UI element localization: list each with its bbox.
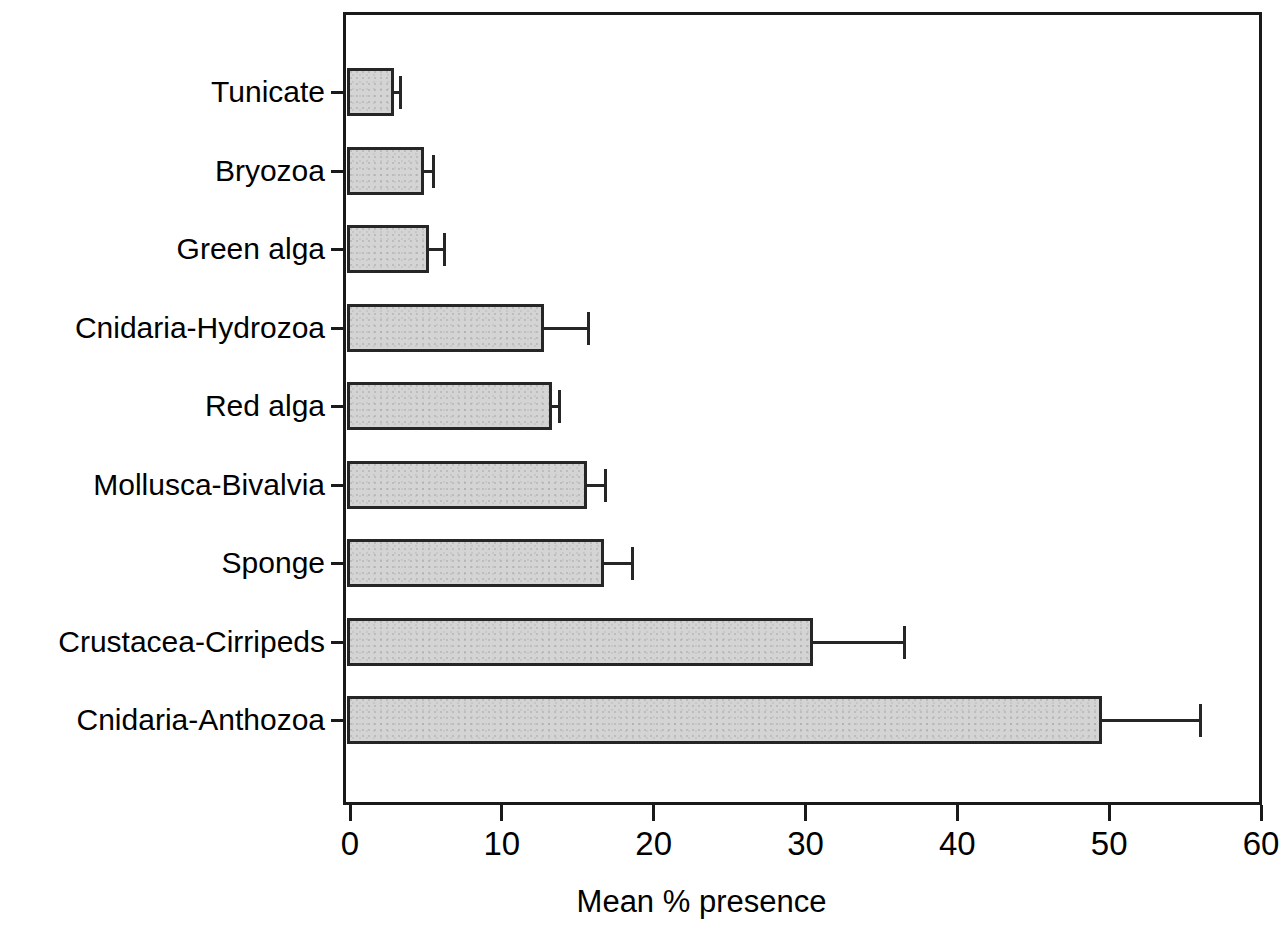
error-bar-line: [587, 484, 604, 487]
error-bar-line: [544, 327, 587, 330]
error-bar-cap: [432, 155, 435, 188]
y-axis-label-cnidaria-hydrozoa: Cnidaria-Hydrozoa: [0, 312, 325, 344]
y-axis-label-tunicate: Tunicate: [0, 76, 325, 108]
y-axis-label-mollusca-bivalvia: Mollusca-Bivalvia: [0, 469, 325, 501]
x-axis-tick: [652, 805, 655, 821]
bar-tunicate: [347, 68, 394, 116]
x-axis-tick-label: 20: [635, 826, 672, 862]
bar-mollusca-bivalvia: [347, 461, 587, 509]
x-axis-tick: [500, 805, 503, 821]
bar-bryozoa: [347, 147, 424, 195]
error-bar-cap: [604, 469, 607, 502]
bar-chart: TunicateBryozoaGreen algaCnidaria-Hydroz…: [0, 0, 1283, 932]
error-bar-cap: [399, 76, 402, 109]
bar-crustacea-cirripeds: [347, 618, 813, 666]
bar-cnidaria-anthozoa: [347, 696, 1102, 744]
x-axis-tick: [1108, 805, 1111, 821]
bars-layer: [343, 12, 1262, 805]
y-axis-label-green-alga: Green alga: [0, 233, 325, 265]
y-axis-label-cnidaria-anthozoa: Cnidaria-Anthozoa: [0, 704, 325, 736]
bar-sponge: [347, 539, 604, 587]
error-bar-cap: [443, 233, 446, 266]
x-axis-tick-label: 10: [483, 826, 520, 862]
y-axis-label-crustacea-cirripeds: Crustacea-Cirripeds: [0, 626, 325, 658]
error-bar-cap: [587, 312, 590, 345]
error-bar-cap: [631, 547, 634, 580]
error-bar-cap: [558, 390, 561, 423]
y-axis-label-red-alga: Red alga: [0, 390, 325, 422]
x-axis-tick-label: 50: [1091, 826, 1128, 862]
x-axis-tick-label: 40: [939, 826, 976, 862]
x-axis-tick: [804, 805, 807, 821]
y-axis-label-sponge: Sponge: [0, 547, 325, 579]
error-bar-cap: [903, 626, 906, 659]
error-bar-line: [424, 170, 432, 173]
x-axis-title: Mean % presence: [0, 885, 1283, 919]
error-bar-line: [604, 562, 631, 565]
error-bar-line: [429, 248, 443, 251]
x-axis-tick-label: 30: [787, 826, 824, 862]
error-bar-line: [1102, 719, 1199, 722]
y-axis-label-bryozoa: Bryozoa: [0, 155, 325, 187]
bar-green-alga: [347, 225, 429, 273]
x-axis-title-text: Mean % presence: [577, 884, 827, 919]
x-axis-tick-label: 60: [1243, 826, 1280, 862]
error-bar-line: [813, 641, 903, 644]
bar-cnidaria-hydrozoa: [347, 304, 544, 352]
x-axis-tick: [1260, 805, 1263, 821]
x-axis-tick: [956, 805, 959, 821]
x-axis-tick-label: 0: [341, 826, 359, 862]
x-axis-tick: [349, 805, 352, 821]
bar-red-alga: [347, 382, 552, 430]
error-bar-cap: [1199, 704, 1202, 737]
